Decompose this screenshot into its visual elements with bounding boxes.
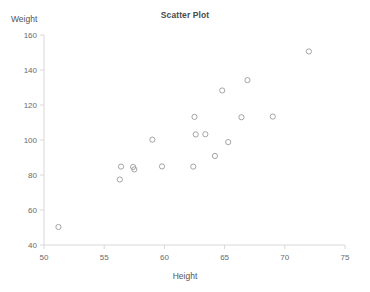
tick-layer: 406080100120140160505560657075	[24, 31, 350, 262]
data-point	[159, 164, 164, 169]
x-axis-tick-label: 55	[100, 253, 109, 262]
y-axis-tick-label: 60	[28, 206, 37, 215]
y-axis-tick-label: 120	[24, 101, 38, 110]
scatter-plot-figure: Scatter Plot Weight Height 4060801001201…	[0, 0, 370, 292]
data-point	[220, 88, 225, 93]
x-axis-tick-label: 70	[280, 253, 289, 262]
data-point	[192, 114, 197, 119]
data-point	[306, 49, 311, 54]
x-axis-tick-label: 65	[220, 253, 229, 262]
x-axis-tick-label: 75	[341, 253, 350, 262]
data-point	[56, 224, 61, 229]
y-axis-tick-label: 140	[24, 66, 38, 75]
data-point	[226, 140, 231, 145]
data-point	[150, 137, 155, 142]
data-point	[193, 132, 198, 137]
data-point	[239, 115, 244, 120]
y-axis-tick-label: 40	[28, 241, 37, 250]
data-point	[117, 177, 122, 182]
x-axis-tick-label: 50	[40, 253, 49, 262]
axis-layer	[44, 35, 345, 245]
plot-canvas: 406080100120140160505560657075	[0, 0, 370, 292]
data-point	[245, 78, 250, 83]
data-points-layer	[56, 49, 312, 230]
data-point	[270, 114, 275, 119]
x-axis-tick-label: 60	[160, 253, 169, 262]
data-point	[203, 132, 208, 137]
data-point	[212, 153, 217, 158]
y-axis-tick-label: 100	[24, 136, 38, 145]
data-point	[118, 164, 123, 169]
data-point	[191, 164, 196, 169]
y-axis-tick-label: 160	[24, 31, 38, 40]
y-axis-tick-label: 80	[28, 171, 37, 180]
